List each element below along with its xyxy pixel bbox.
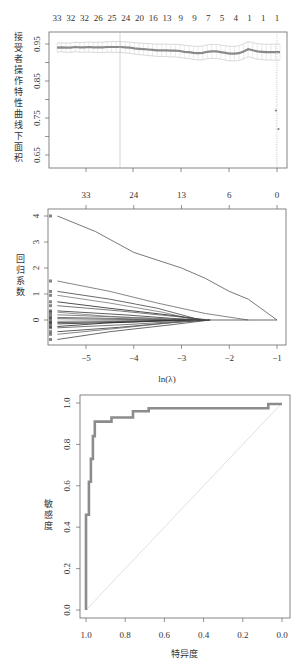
p2-top-label: 13 (177, 190, 187, 200)
p1-top-label: 32 (66, 13, 75, 23)
p2-y-axis-title: 回归系数 (16, 254, 25, 297)
p3-ytick-label: 0.4 (62, 521, 72, 533)
p2-xtick-label: −3 (177, 353, 187, 363)
p1-ytick-label: 0.65 (32, 147, 42, 163)
p1-top-label: 9 (192, 13, 197, 23)
chart-canvas: 33323226252420161399754111 0.950.850.750… (0, 0, 303, 671)
p1-top-label: 25 (108, 13, 118, 23)
p3-y-axis: 0.00.20.40.60.81.0 (62, 397, 80, 616)
p1-top-label: 7 (206, 13, 211, 23)
p2-ytick-label: 4 (31, 213, 41, 218)
p2-top-axis-labels: 33241360 (82, 190, 280, 209)
p3-ytick-label: 0.2 (62, 563, 72, 574)
roc-plot: 0.00.20.40.60.81.0 1.00.80.60.40.20.0 敏感… (44, 395, 291, 659)
p1-ytick-label: 0.95 (32, 36, 42, 52)
p3-frame (80, 395, 290, 618)
p1-ytick-label: 0.75 (32, 110, 42, 126)
p2-ylabel-char: 系 (16, 276, 25, 286)
p2-xtick-label: −2 (224, 353, 234, 363)
coef-path-plot: 33241360 01234 −5−4−3−2−1 回归系数 ln(λ) (16, 190, 287, 384)
p2-ytick-label: 2 (31, 266, 41, 271)
p1-top-label: 20 (135, 13, 145, 23)
auc-cv-plot: 33323226252420161399754111 0.950.850.750… (14, 13, 288, 172)
p2-coef-lines (57, 216, 277, 340)
p1-ylabel-char: 积 (14, 152, 23, 163)
p3-ytick-label: 0.8 (62, 438, 72, 450)
p2-ytick-label: 1 (31, 292, 41, 297)
p2-ylabel-char: 回 (16, 254, 25, 264)
p3-ylabel-char: 敏 (44, 498, 53, 509)
p1-ylabel-char: 操 (14, 64, 23, 75)
p1-ylabel-char: 者 (14, 54, 23, 64)
p1-ylabel-char: 作 (14, 75, 23, 86)
p2-left-rug (49, 215, 52, 342)
p3-xtick-label: 0.6 (159, 630, 171, 640)
p2-top-label: 0 (275, 190, 280, 200)
p1-ylabel-char: 线 (14, 119, 23, 130)
p1-ylabel-char: 面 (14, 142, 23, 152)
p2-ytick-label: 3 (31, 239, 41, 244)
p1-top-label: 4 (234, 13, 239, 23)
p1-x-axis-ticks (86, 168, 277, 172)
p3-x-axis-title: 特异度 (171, 648, 198, 659)
p1-top-label: 1 (247, 13, 252, 23)
p2-ylabel-char: 数 (16, 286, 25, 297)
p3-ylabel-char: 度 (44, 520, 53, 531)
p3-x-axis: 1.00.80.60.40.20.0 (80, 618, 288, 640)
p3-ytick-label: 0.6 (62, 480, 72, 492)
p1-auc-line (57, 47, 280, 54)
p1-ylabel-char: 接 (14, 31, 23, 42)
p1-ylabel-char: 曲 (14, 109, 23, 119)
p1-top-label: 16 (149, 13, 159, 23)
p1-ylabel-char: 特 (14, 86, 23, 97)
p1-top-label: 1 (261, 13, 266, 23)
p3-xtick-label: 0.2 (237, 630, 248, 640)
p1-top-label: 13 (163, 13, 173, 23)
p3-xtick-label: 0.8 (120, 630, 132, 640)
p2-top-label: 24 (129, 190, 139, 200)
p3-y-axis-title: 敏感度 (44, 498, 53, 531)
p1-top-label: 9 (179, 13, 184, 23)
p2-ylabel-char: 归 (16, 264, 25, 275)
p2-x-axis: −5−4−3−2−1 (81, 345, 282, 363)
p1-ytick-label: 0.85 (32, 73, 42, 89)
p2-xtick-label: −4 (129, 353, 139, 363)
p1-top-label: 5 (220, 13, 225, 23)
p2-top-label: 33 (82, 190, 92, 200)
p3-reference-line (86, 403, 282, 610)
p3-xtick-label: 1.0 (80, 630, 92, 640)
p1-y-axis: 0.950.850.750.65 (32, 36, 49, 163)
p1-top-label: 33 (53, 13, 63, 23)
p3-xtick-label: 0.0 (276, 630, 288, 640)
p3-xtick-label: 0.4 (198, 630, 210, 640)
p3-ytick-label: 1.0 (62, 397, 72, 409)
p2-xtick-label: −1 (272, 353, 282, 363)
p1-top-axis-labels: 33323226252420161399754111 (53, 13, 280, 23)
p2-ytick-label: 0 (31, 317, 41, 322)
coef-path (57, 216, 277, 320)
p1-ylabel-char: 下 (14, 131, 23, 141)
p1-top-label: 24 (121, 13, 131, 23)
p1-y-axis-title: 接受者操作特性曲线下面积 (14, 31, 23, 163)
p2-x-axis-title: ln(λ) (158, 374, 175, 384)
p2-y-axis: 01234 (31, 213, 48, 322)
p1-top-label: 1 (275, 13, 280, 23)
p1-ylabel-char: 受 (14, 42, 23, 53)
p3-ytick-label: 0.0 (62, 604, 72, 616)
p3-ylabel-char: 感 (44, 509, 53, 520)
p1-top-label: 26 (94, 13, 104, 23)
p2-xtick-label: −5 (81, 353, 91, 363)
p2-top-label: 6 (227, 190, 232, 200)
p1-top-label: 32 (80, 13, 89, 23)
p1-ylabel-char: 性 (14, 97, 23, 108)
